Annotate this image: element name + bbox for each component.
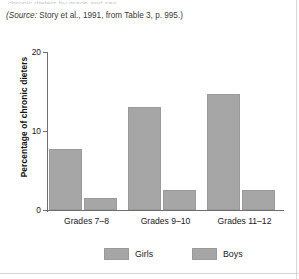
legend-item-boys[interactable]: Boys	[192, 248, 243, 260]
x-axis-label-1: Grades 7–8	[64, 216, 109, 226]
bar-boys-group-1	[84, 198, 117, 210]
y-tick-mark	[43, 52, 48, 53]
y-tick-label: 0	[36, 205, 41, 215]
legend-swatch-girls	[104, 248, 129, 260]
plot-area: 01020	[47, 53, 284, 211]
x-axis-labels: Grades 7–8Grades 9–10Grades 11–12	[47, 216, 284, 230]
y-tick-mark	[43, 131, 48, 132]
page-bottom-divider	[0, 273, 299, 274]
legend-swatch-boys	[192, 248, 217, 260]
bar-girls-group-3	[207, 94, 240, 210]
source-caption: (Source: Story et al., 1991, from Table …	[6, 10, 183, 21]
source-caption-text: Story et al., 1991, from Table 3, p. 995…	[37, 11, 183, 20]
x-axis-line	[47, 210, 284, 211]
y-tick-label: 10	[32, 126, 41, 136]
legend-label-girls: Girls	[135, 249, 153, 259]
x-axis-label-3: Grades 11–12	[218, 216, 272, 226]
y-axis-title: Percentage of chronic dieters	[19, 37, 29, 197]
y-tick-label: 20	[32, 47, 41, 57]
bar-boys-group-2	[163, 190, 196, 210]
bar-girls-group-1	[49, 149, 82, 210]
source-caption-prefix: (Source:	[6, 11, 37, 20]
bar-boys-group-3	[242, 190, 275, 210]
x-axis-label-2: Grades 9–10	[141, 216, 191, 226]
cut-off-caption-line: chronic dieters by grade and sex	[8, 0, 178, 4]
bar-girls-group-2	[128, 107, 161, 210]
y-tick-mark	[43, 210, 48, 211]
legend-label-boys: Boys	[223, 249, 243, 259]
chart-legend: GirlsBoys	[0, 248, 299, 264]
legend-item-girls[interactable]: Girls	[104, 248, 153, 260]
bar-chart: Percentage of chronic dieters 01020 Grad…	[0, 40, 299, 240]
figure-page: chronic dieters by grade and sex (Source…	[0, 0, 299, 279]
